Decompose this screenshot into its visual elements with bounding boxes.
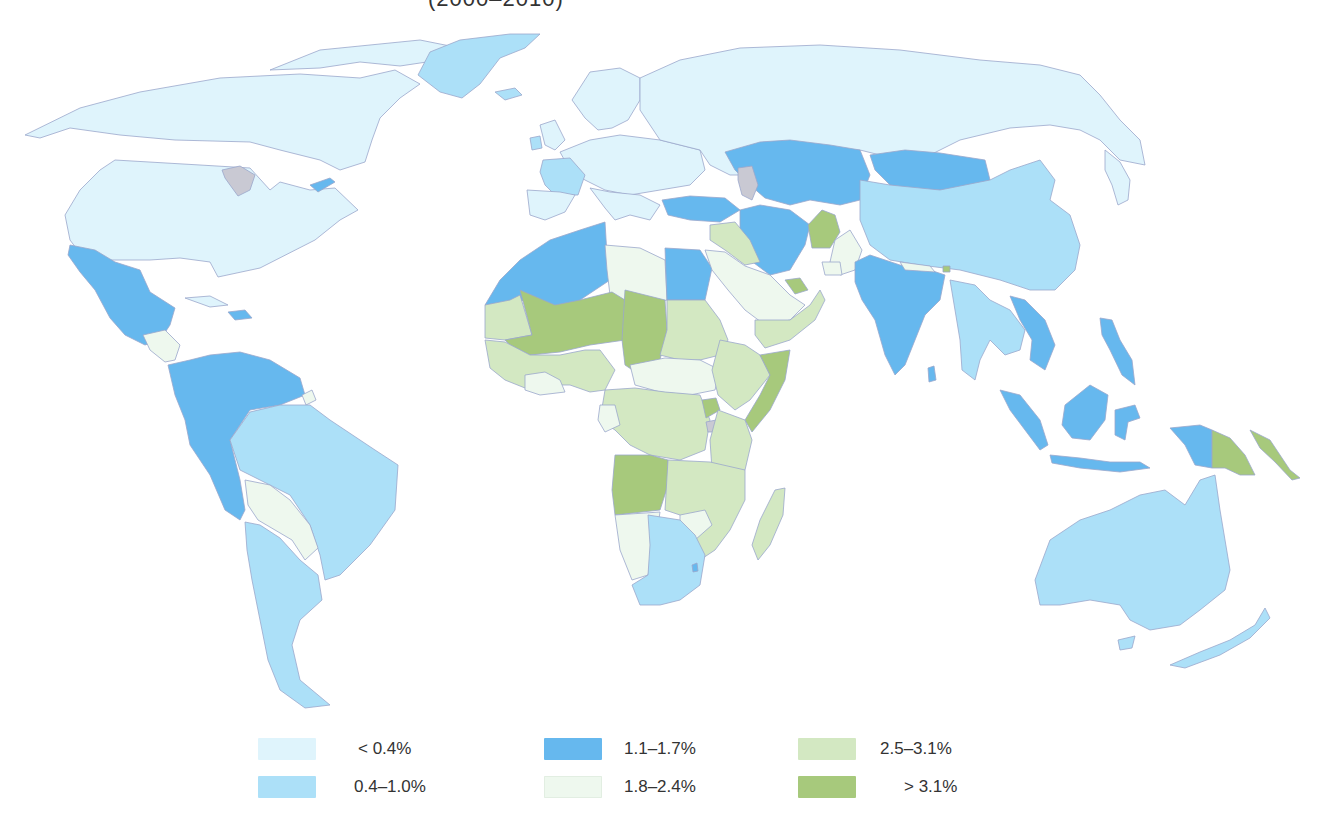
region-southern-cone xyxy=(245,522,330,708)
legend-swatch xyxy=(544,738,602,760)
legend-label: 1.1–1.7% xyxy=(624,739,696,759)
region-pakistan-west-coast xyxy=(822,262,842,275)
region-madagascar xyxy=(752,488,785,560)
map-legend: < 0.4% 0.4–1.0% 1.1–1.7% 1.8–2.4% 2.5–3.… xyxy=(258,738,978,804)
legend-label: 1.8–2.4% xyxy=(624,777,696,797)
region-bhutan xyxy=(943,266,950,272)
region-iceland xyxy=(495,88,522,100)
legend-label: 2.5–3.1% xyxy=(880,739,952,759)
region-sulawesi xyxy=(1115,405,1140,440)
region-borneo xyxy=(1062,385,1108,440)
legend-label: 0.4–1.0% xyxy=(354,777,426,797)
region-angola xyxy=(612,455,668,515)
region-uk xyxy=(540,120,565,150)
region-australia xyxy=(1035,475,1230,630)
region-sri-lanka xyxy=(928,366,936,382)
world-map xyxy=(0,0,1336,824)
region-philippines xyxy=(1100,318,1135,385)
legend-swatch xyxy=(798,776,856,798)
region-papua-new-guinea xyxy=(1212,430,1255,475)
region-canada-alaska xyxy=(25,70,420,170)
region-java-chain xyxy=(1050,455,1150,472)
region-iran xyxy=(740,205,810,275)
region-uae xyxy=(785,278,808,294)
region-scandinavia xyxy=(572,68,640,130)
legend-swatch xyxy=(544,776,602,798)
region-hispaniola xyxy=(228,310,252,320)
region-ireland xyxy=(530,136,542,150)
legend-swatch xyxy=(798,738,856,760)
region-iberia xyxy=(527,190,575,220)
region-central-america xyxy=(143,330,180,362)
legend-swatch xyxy=(258,738,316,760)
region-southeast-asia-mainland xyxy=(950,280,1025,380)
region-tasmania xyxy=(1118,636,1135,650)
legend-label: < 0.4% xyxy=(358,739,411,759)
legend-swatch xyxy=(258,776,316,798)
region-west-papua xyxy=(1170,425,1212,468)
region-sumatra xyxy=(1000,390,1048,450)
region-solomon-islands xyxy=(1250,430,1300,480)
region-cuba xyxy=(185,296,228,307)
region-india xyxy=(855,255,945,375)
region-egypt xyxy=(665,248,712,300)
region-swaziland xyxy=(692,563,698,572)
legend-label: > 3.1% xyxy=(904,777,957,797)
region-turkey xyxy=(662,196,740,222)
